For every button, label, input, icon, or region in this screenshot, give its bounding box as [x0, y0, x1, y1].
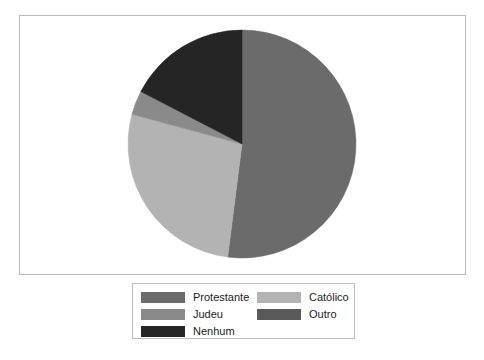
legend-label-nenhum: Nenhum [193, 325, 235, 337]
legend-swatch-catolico [257, 292, 301, 303]
legend: Protestante Judeu Nenhum Católico Outro [132, 283, 355, 339]
pie-slice-protestante[interactable] [228, 30, 356, 258]
pie-chart [19, 15, 466, 275]
legend-swatch-outro [257, 309, 301, 320]
legend-item-catolico[interactable]: Católico [257, 289, 349, 305]
legend-swatch-nenhum [141, 326, 185, 337]
legend-swatch-judeu [141, 309, 185, 320]
legend-label-protestante: Protestante [193, 291, 249, 303]
legend-column-left: Protestante Judeu Nenhum [141, 289, 249, 340]
legend-item-protestante[interactable]: Protestante [141, 289, 249, 305]
legend-label-outro: Outro [309, 308, 337, 320]
pie-svg [19, 15, 466, 275]
legend-item-outro[interactable]: Outro [257, 306, 349, 322]
legend-column-right: Católico Outro [257, 289, 349, 323]
legend-item-judeu[interactable]: Judeu [141, 306, 249, 322]
legend-label-judeu: Judeu [193, 308, 223, 320]
legend-item-nenhum[interactable]: Nenhum [141, 323, 249, 339]
legend-swatch-protestante [141, 292, 185, 303]
chart-page: Protestante Judeu Nenhum Católico Outro [0, 0, 484, 360]
pie-slice-group [128, 30, 356, 258]
legend-label-catolico: Católico [309, 291, 349, 303]
